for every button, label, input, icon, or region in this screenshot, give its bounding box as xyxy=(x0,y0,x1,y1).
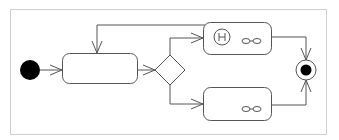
initial-node[interactable] xyxy=(20,60,40,80)
activity-diagram xyxy=(0,0,339,140)
final-node[interactable] xyxy=(296,60,316,80)
action-node-3[interactable] xyxy=(204,88,272,121)
action-node-1[interactable] xyxy=(63,54,138,84)
